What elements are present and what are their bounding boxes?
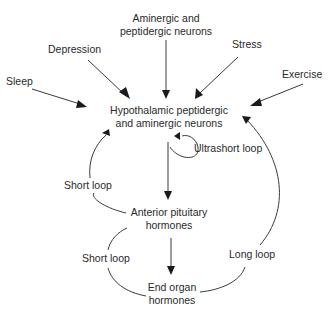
label-ultrashort-loop: Ultrashort loop — [194, 142, 262, 155]
node-stress: Stress — [232, 38, 262, 51]
node-end-organ-line1: End organ — [144, 281, 200, 294]
arrow-exercise-to-hypothalamic — [250, 84, 303, 106]
node-sleep: Sleep — [6, 75, 33, 88]
node-hypothalamic-line2: and aminergic neurons — [104, 117, 234, 130]
short-loop-upper-arrow — [90, 129, 126, 213]
arrow-aminergic-to-hypothalamic — [162, 40, 170, 99]
arrow-stress-to-hypothalamic — [195, 57, 238, 99]
node-pituitary-line1: Anterior pituitary — [126, 206, 212, 219]
node-hypothalamic-neurons: Hypothalamic peptidergic and aminergic n… — [104, 104, 234, 130]
node-aminergic-line1: Aminergic and — [118, 12, 214, 25]
arrow-pituitary-to-end-organ — [167, 238, 175, 275]
node-end-organ-hormones: End organ hormones — [144, 281, 200, 307]
node-pituitary-line2: hormones — [126, 219, 212, 232]
neuroendocrine-feedback-diagram: Aminergic and peptidergic neurons Depres… — [0, 0, 332, 312]
arrow-hypothalamic-to-pituitary — [164, 142, 172, 200]
node-exercise: Exercise — [282, 68, 322, 81]
node-anterior-pituitary-hormones: Anterior pituitary hormones — [126, 206, 212, 232]
label-short-loop-lower: Short loop — [82, 252, 130, 265]
node-hypothalamic-line1: Hypothalamic peptidergic — [104, 104, 234, 117]
node-depression: Depression — [48, 43, 101, 56]
label-long-loop: Long loop — [229, 248, 275, 261]
label-short-loop-upper: Short loop — [64, 179, 112, 192]
arrow-sleep-to-hypothalamic — [32, 89, 87, 108]
arrow-depression-to-hypothalamic — [88, 60, 130, 99]
node-aminergic-line2: peptidergic neurons — [118, 25, 214, 38]
node-aminergic-peptidergic-neurons: Aminergic and peptidergic neurons — [118, 12, 214, 38]
node-end-organ-line2: hormones — [144, 294, 200, 307]
